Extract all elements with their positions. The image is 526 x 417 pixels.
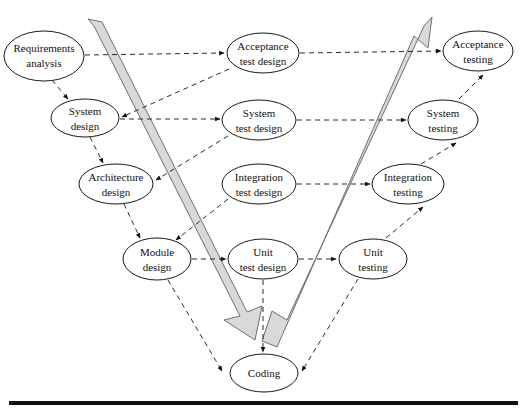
node-label-line1: Unit xyxy=(363,246,383,258)
node-label-line1: Coding xyxy=(248,367,281,379)
link-module-design-to-coding xyxy=(168,280,222,371)
node-label-line2: testing xyxy=(393,186,423,198)
node-label-line1: System xyxy=(427,107,460,119)
node-unit-test-design[interactable]: Unit test design xyxy=(228,239,298,279)
link-acceptance-test-design-to-acceptance-testing xyxy=(300,51,441,53)
node-label-line1: System xyxy=(69,105,102,117)
node-requirements-analysis[interactable]: Requirements analysis xyxy=(4,31,84,81)
node-label-line2: test design xyxy=(240,55,287,67)
node-label-line2: test design xyxy=(240,261,287,273)
link-unit-testing-to-integration-testing xyxy=(386,207,423,238)
node-label-line2: testing xyxy=(358,261,388,273)
node-label-line2: analysis xyxy=(26,57,61,69)
node-module-design[interactable]: Module design xyxy=(123,238,191,280)
link-requirements-to-system-design xyxy=(52,80,68,99)
link-requirements-to-acceptance-test-design xyxy=(85,53,224,55)
link-integration-testing-to-system-testing xyxy=(421,143,456,164)
node-label-line2: testing xyxy=(428,122,458,134)
node-system-design[interactable]: System design xyxy=(51,99,119,137)
node-architecture-design[interactable]: Architecture design xyxy=(79,164,153,204)
node-label-line2: testing xyxy=(463,53,493,65)
node-label-line2: test design xyxy=(236,186,283,198)
node-label-line1: Unit xyxy=(253,246,273,258)
node-acceptance-testing[interactable]: Acceptance testing xyxy=(443,31,513,71)
node-label-line1: Integration xyxy=(384,171,433,183)
v-model-diagram: Requirements analysis System design Arch… xyxy=(0,0,526,417)
v-model-canvas: Requirements analysis System design Arch… xyxy=(0,0,526,417)
node-label-line1: System xyxy=(243,107,276,119)
node-label-line1: Architecture xyxy=(89,171,144,183)
node-label-line1: Integration xyxy=(235,171,284,183)
node-label-line2: test design xyxy=(236,122,283,134)
node-integration-testing[interactable]: Integration testing xyxy=(372,164,444,204)
link-coding-to-unit-testing xyxy=(302,279,358,371)
node-coding[interactable]: Coding xyxy=(230,354,298,392)
node-group: Requirements analysis System design Arch… xyxy=(4,31,513,392)
link-architecture-design-to-module-design xyxy=(124,204,140,238)
node-integration-test-design[interactable]: Integration test design xyxy=(222,164,296,204)
bottom-rule xyxy=(9,401,518,405)
node-label-line2: design xyxy=(71,120,100,132)
link-system-design-to-architecture-design xyxy=(90,137,103,163)
node-system-test-design[interactable]: System test design xyxy=(222,100,296,140)
node-label-line2: design xyxy=(143,261,172,273)
node-label-line1: Requirements xyxy=(13,42,74,54)
node-system-testing[interactable]: System testing xyxy=(408,100,478,140)
node-label-line1: Acceptance xyxy=(452,38,503,50)
node-label-line1: Acceptance xyxy=(237,40,288,52)
node-label-line1: Module xyxy=(140,246,174,258)
node-unit-testing[interactable]: Unit testing xyxy=(339,239,407,279)
node-shape xyxy=(123,238,191,280)
node-acceptance-test-design[interactable]: Acceptance test design xyxy=(227,33,299,73)
link-system-testing-to-acceptance-testing xyxy=(459,75,483,99)
node-label-line2: design xyxy=(102,186,131,198)
